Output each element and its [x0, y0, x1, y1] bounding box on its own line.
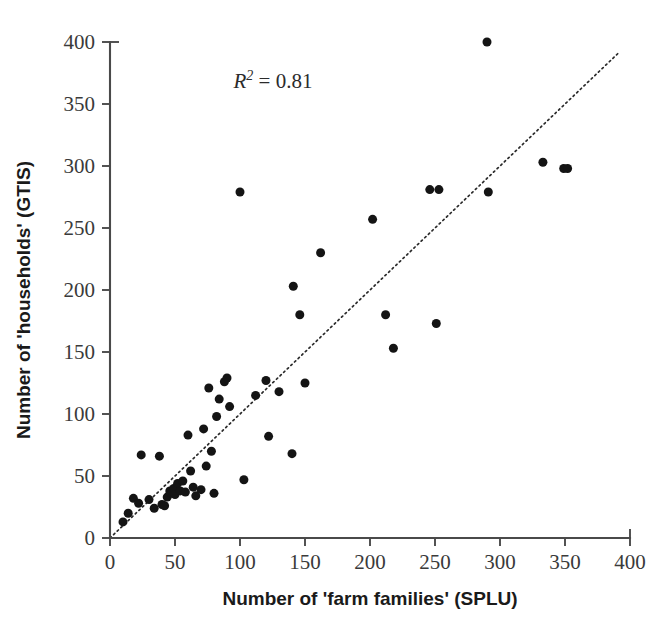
data-point: [160, 501, 169, 510]
data-point: [215, 395, 224, 404]
data-point: [239, 475, 248, 484]
data-point: [134, 499, 143, 508]
data-point: [264, 432, 273, 441]
data-point: [288, 449, 297, 458]
data-point: [212, 412, 221, 421]
scatter-plot-figure: 050100150200250300350400 050100150200250…: [0, 0, 658, 628]
data-point: [251, 391, 260, 400]
y-tick-label-350: 350: [64, 92, 96, 116]
r-squared-superscript: 2: [246, 68, 253, 83]
data-point: [484, 188, 493, 197]
data-point: [145, 495, 154, 504]
y-tick-label-200: 200: [64, 278, 96, 302]
data-point: [425, 185, 434, 194]
x-tick-label-150: 150: [289, 550, 321, 574]
data-point: [186, 467, 195, 476]
data-point: [301, 379, 310, 388]
data-point: [204, 383, 213, 392]
data-point: [137, 450, 146, 459]
y-axis-title: Number of 'households' (GTIS): [13, 161, 34, 439]
data-point: [124, 509, 133, 518]
data-point: [202, 462, 211, 471]
data-point: [483, 38, 492, 47]
x-axis-tick-labels: 050100150200250300350400: [105, 538, 646, 574]
y-tick-label-400: 400: [64, 30, 96, 54]
y-tick-label-0: 0: [85, 526, 96, 550]
data-points-group: [119, 38, 573, 527]
data-point: [119, 517, 128, 526]
r-squared-annotation: R2 = 0.81: [233, 68, 313, 93]
y-axis-tick-labels: 050100150200250300350400: [64, 30, 111, 550]
data-point: [289, 282, 298, 291]
data-point: [316, 248, 325, 257]
chart-canvas: 050100150200250300350400 050100150200250…: [0, 0, 658, 628]
data-point: [434, 185, 443, 194]
y-tick-label-100: 100: [64, 402, 96, 426]
data-point: [368, 215, 377, 224]
y-tick-label-300: 300: [64, 154, 96, 178]
data-point: [184, 431, 193, 440]
data-point: [181, 488, 190, 497]
data-point: [538, 158, 547, 167]
data-point: [197, 485, 206, 494]
x-tick-label-100: 100: [224, 550, 256, 574]
y-tick-label-150: 150: [64, 340, 96, 364]
data-point: [563, 164, 572, 173]
x-tick-label-300: 300: [484, 550, 516, 574]
x-tick-label-250: 250: [419, 550, 451, 574]
data-point: [225, 402, 234, 411]
data-point: [432, 319, 441, 328]
x-tick-label-50: 50: [165, 550, 186, 574]
y-tick-label-250: 250: [64, 216, 96, 240]
data-point: [155, 452, 164, 461]
data-point: [199, 424, 208, 433]
data-point: [381, 310, 390, 319]
y-tick-label-50: 50: [74, 464, 95, 488]
x-tick-label-200: 200: [354, 550, 386, 574]
r-squared-value: = 0.81: [253, 69, 312, 93]
x-axis-title: Number of 'farm families' (SPLU): [222, 588, 517, 609]
data-point: [178, 476, 187, 485]
data-point: [189, 483, 198, 492]
data-point: [275, 387, 284, 396]
data-point: [389, 344, 398, 353]
x-tick-label-350: 350: [549, 550, 581, 574]
one-to-one-line: [110, 52, 620, 538]
x-tick-label-400: 400: [614, 550, 646, 574]
data-point: [210, 489, 219, 498]
data-point: [223, 374, 232, 383]
x-tick-label-0: 0: [105, 550, 116, 574]
data-point: [207, 447, 216, 456]
data-point: [295, 310, 304, 319]
data-point: [150, 504, 159, 513]
data-point: [236, 188, 245, 197]
one-to-one-reference-line: [110, 52, 620, 538]
r-squared-symbol: R: [233, 69, 247, 93]
data-point: [262, 376, 271, 385]
